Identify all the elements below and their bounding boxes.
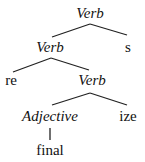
node-suffix-s: s (125, 39, 131, 55)
edge-verb-to-ize (90, 93, 127, 105)
node-prefix-re: re (5, 72, 17, 88)
node-root-final: final (36, 142, 64, 158)
edge-verb-to-verb (51, 58, 89, 70)
node-adjective: Adjective (21, 108, 78, 124)
edge-verb-to-adjective (52, 93, 90, 105)
edge-verb-to-re (13, 58, 51, 72)
node-suffix-ize: ize (119, 108, 137, 124)
edge-root-to-verb (52, 24, 90, 37)
node-verb-level2: Verb (78, 72, 106, 88)
node-root-verb: Verb (76, 5, 104, 21)
edge-root-to-s (90, 24, 127, 35)
node-verb-level1: Verb (36, 39, 64, 55)
morphology-tree-diagram: Verb Verb s re Verb Adjective ize final (0, 0, 145, 162)
